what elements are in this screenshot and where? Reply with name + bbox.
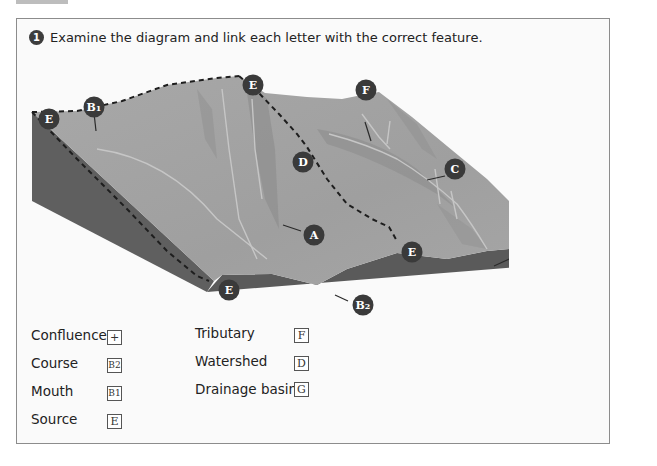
answer-box-mouth[interactable]: B1 xyxy=(107,386,122,401)
marker-B1: B1 xyxy=(84,97,105,118)
answer-box-watershed[interactable]: D xyxy=(294,356,309,371)
svg-text:F: F xyxy=(362,84,370,97)
marker-A: A xyxy=(304,225,325,246)
marker-D: D xyxy=(293,152,314,173)
marker-F: F xyxy=(356,80,377,101)
svg-text:E: E xyxy=(45,113,53,126)
answer-box-confluence[interactable]: + xyxy=(107,330,122,345)
legend-item-source: Source xyxy=(31,411,77,427)
svg-text:E: E xyxy=(408,246,416,259)
svg-text:E: E xyxy=(249,79,257,92)
marker-E2: E xyxy=(243,75,264,96)
drainage-basin-diagram: E B1 E F D C A E G E B2 xyxy=(17,19,509,319)
marker-C: C xyxy=(445,159,466,180)
marker-E1: E xyxy=(39,109,60,130)
svg-text:E: E xyxy=(225,284,233,297)
answer-box-source[interactable]: E xyxy=(107,414,122,429)
answer-box-drainage-basin[interactable]: G xyxy=(294,382,309,397)
legend-item-watershed: Watershed xyxy=(195,353,267,369)
svg-text:B2: B2 xyxy=(356,299,371,312)
legend-item-course: Course xyxy=(31,355,78,371)
answer-box-tributary[interactable]: F xyxy=(294,328,309,343)
marker-B2: B2 xyxy=(353,295,374,316)
legend-item-confluence: Confluence xyxy=(31,327,107,343)
svg-text:D: D xyxy=(298,156,308,169)
legend-item-tributary: Tributary xyxy=(195,325,255,341)
exercise-box: 1 Examine the diagram and link each lett… xyxy=(16,18,610,444)
legend-item-drainage-basin: Drainage basin xyxy=(195,381,297,397)
marker-E4: E xyxy=(219,280,240,301)
svg-text:A: A xyxy=(309,229,319,242)
page-header-strip xyxy=(16,0,68,4)
marker-E3: E xyxy=(402,242,423,263)
answer-box-course[interactable]: B2 xyxy=(107,358,122,373)
legend-item-mouth: Mouth xyxy=(31,383,73,399)
svg-text:C: C xyxy=(451,163,460,176)
svg-text:B1: B1 xyxy=(87,101,102,114)
